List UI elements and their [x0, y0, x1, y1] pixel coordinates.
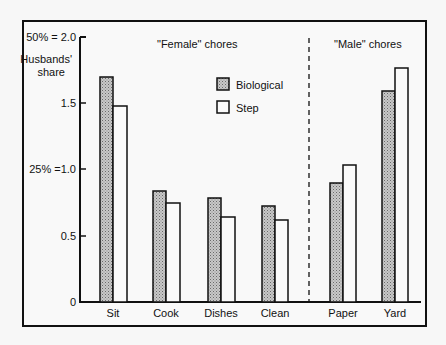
male-chores-label: "Male" chores — [334, 38, 402, 50]
bar-yard-biological — [382, 91, 395, 302]
bar-sit-biological — [100, 77, 113, 302]
y-title-line1: Husbands' — [20, 53, 72, 65]
legend: Biological Step — [217, 78, 283, 114]
legend-label-step: Step — [236, 102, 259, 114]
y-label-1-5: 1.5 — [61, 97, 76, 109]
y-label-0-5: 0.5 — [61, 230, 76, 242]
bar-chart: 50% = 2.0 Husbands' share 1.5 25% =1.0 0… — [0, 0, 446, 345]
legend-label-biological: Biological — [236, 79, 283, 91]
bar-yard-step — [395, 68, 408, 302]
y-label-top: 50% = 2.0 — [26, 31, 76, 43]
y-label-0: 0 — [70, 296, 76, 308]
bar-clean-step — [275, 220, 288, 302]
x-label-clean: Clean — [261, 307, 290, 319]
legend-swatch-step — [217, 101, 229, 113]
bar-sit-step — [113, 106, 127, 302]
bar-clean-biological — [262, 206, 275, 302]
y-title-line2: share — [37, 66, 65, 78]
legend-swatch-biological — [217, 78, 229, 90]
bar-cook-biological — [153, 191, 166, 302]
bar-dishes-biological — [208, 198, 221, 302]
x-label-cook: Cook — [153, 307, 179, 319]
x-label-sit: Sit — [107, 307, 120, 319]
bar-paper-biological — [330, 183, 343, 302]
y-label-1-0: 25% =1.0 — [29, 163, 76, 175]
bar-paper-step — [343, 165, 356, 302]
x-label-paper: Paper — [328, 307, 358, 319]
bar-cook-step — [166, 203, 180, 302]
x-label-dishes: Dishes — [204, 307, 238, 319]
female-chores-label: "Female" chores — [157, 38, 238, 50]
bar-dishes-step — [221, 217, 235, 302]
x-label-yard: Yard — [384, 307, 406, 319]
